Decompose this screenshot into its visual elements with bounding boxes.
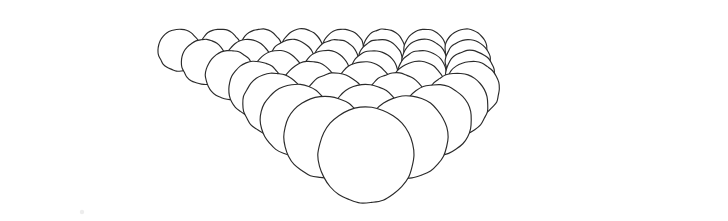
sphere bbox=[318, 107, 414, 203]
sphere-row-1 bbox=[318, 107, 414, 203]
scan-artifact-layer bbox=[80, 210, 84, 214]
scan-speck bbox=[80, 210, 84, 214]
sphere-packing-drawing bbox=[0, 0, 728, 221]
illustration-canvas: Triangular close-packed layer of spheres… bbox=[0, 0, 728, 221]
